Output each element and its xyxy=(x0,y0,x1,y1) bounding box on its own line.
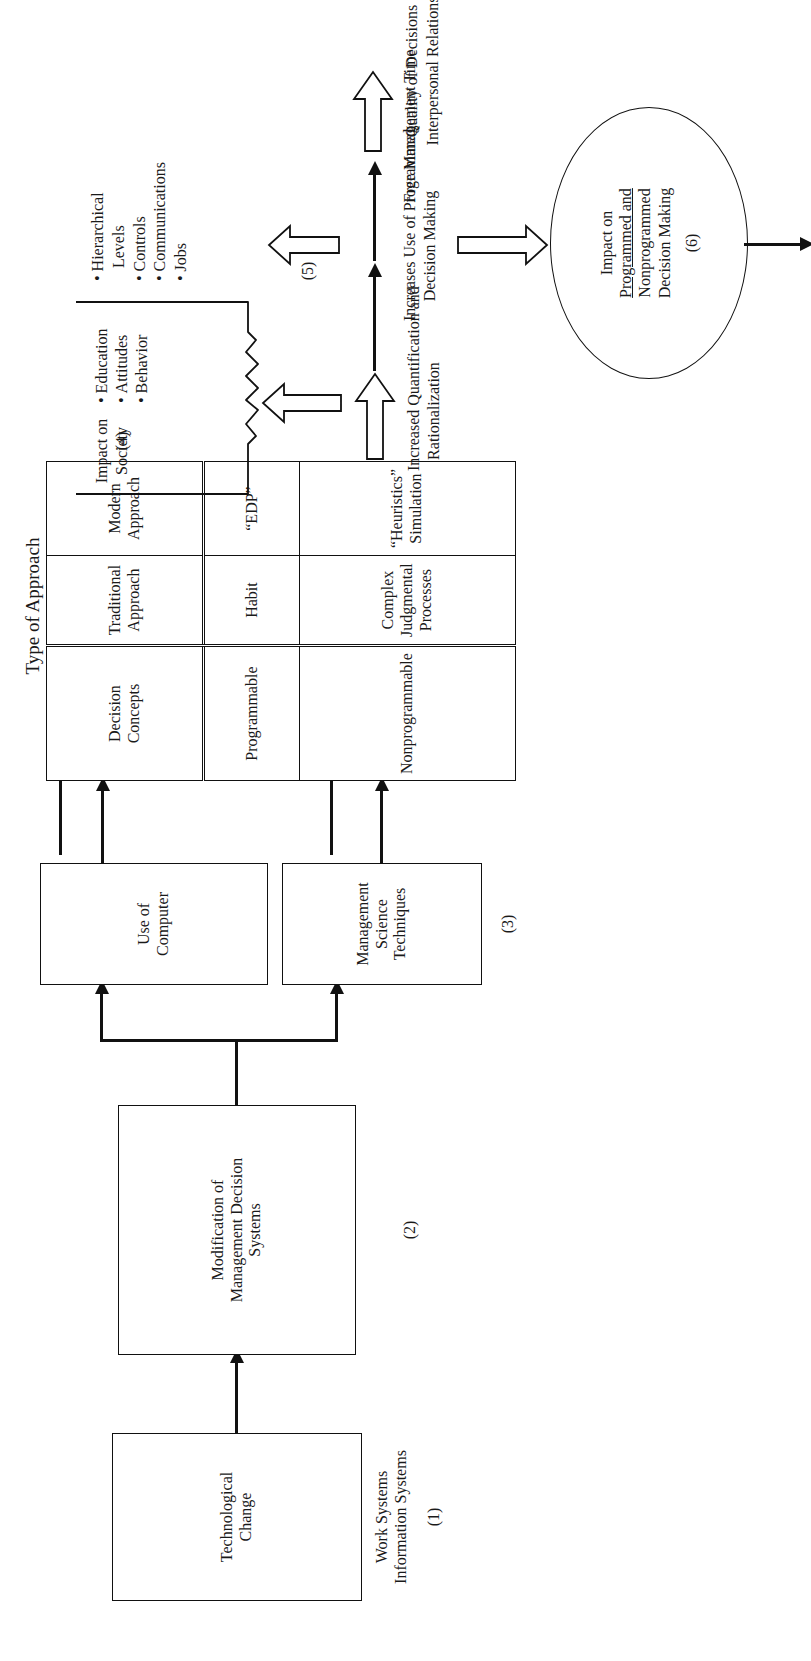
information-systems-label: Information Systems xyxy=(391,1433,410,1601)
bullet-education-label: Education xyxy=(93,329,110,394)
management-science-line3: Techniques xyxy=(391,882,410,966)
connector-mgmtsci-to-nonprogrammable xyxy=(380,787,383,863)
table-row: Nonprogrammable Complex Judgmental Proce… xyxy=(299,462,515,781)
stage-number-2: (2) xyxy=(400,1105,419,1355)
connector-quantification-to-increases-use-head xyxy=(368,263,382,277)
table-cell-habit: Habit xyxy=(204,556,299,646)
ellipse-line1: Impact on xyxy=(597,188,616,299)
connector-quantification-to-increases-use xyxy=(373,271,376,371)
table-cell-heuristics-simulation: “Heuristics” Simulation xyxy=(299,462,515,556)
connector-2-to-management-science xyxy=(335,990,338,1042)
connector-increases-use-to-free-time-head xyxy=(368,161,382,175)
complex-line1: Complex xyxy=(379,562,398,638)
figure-canvas: Technological Change Work Systems Inform… xyxy=(0,0,811,1661)
increased-quantification-line2: Rationalization xyxy=(424,351,444,471)
node-management-science-techniques: Management Science Techniques xyxy=(282,863,482,985)
table-cell-complex-judgmental-processes: Complex Judgmental Processes xyxy=(299,556,515,646)
connector-ellipse-to-middle-mgmt-head xyxy=(800,238,811,252)
complex-line3: Processes xyxy=(417,562,436,638)
bullet-communications: • Communications xyxy=(150,162,171,281)
table-row: Programmable Habit “EDP” xyxy=(204,462,299,781)
modification-line3: Systems xyxy=(246,1158,265,1302)
connector-ellipse-to-middle-mgmt xyxy=(744,243,806,246)
technological-change-caption: Work Systems Information Systems xyxy=(372,1433,410,1601)
bullet-education: • Education xyxy=(92,329,112,403)
bullet-levels: Levels xyxy=(109,162,130,281)
flow-diagram: Technological Change Work Systems Inform… xyxy=(0,0,811,1661)
bullet-hierarchical-label: Hierarchical xyxy=(89,192,106,271)
decision-concepts-line1: Decision xyxy=(106,653,125,774)
heuristics-line2: Simulation xyxy=(407,468,426,549)
type-of-approach-header: Type of Approach xyxy=(22,481,45,731)
work-systems-label: Work Systems xyxy=(372,1433,391,1601)
block-arrow-to-impact-ellipse xyxy=(458,225,548,265)
decision-concepts-line2: Concepts xyxy=(125,653,144,774)
increased-quantification-line1: Increased Quantification and xyxy=(404,351,424,471)
technological-change-line1: Technological xyxy=(218,1472,237,1562)
modification-line2: Management Decision xyxy=(228,1158,247,1302)
table-cell-traditional-approach: Traditional Approach xyxy=(47,556,204,646)
connector-2-to-use-of-computer xyxy=(100,990,103,1042)
table-cell-programmable: Programmable xyxy=(204,646,299,781)
connector-computer-to-programmable xyxy=(101,787,104,863)
bullet-hierarchical: • Hierarchical xyxy=(88,162,109,281)
complex-line2: Judgmental xyxy=(398,562,417,638)
node-technological-change: Technological Change xyxy=(112,1433,362,1601)
bullet-attitudes: • Attitudes xyxy=(112,329,132,403)
increases-use-line2: Decision Making xyxy=(420,171,440,321)
label-increased-quantification: Increased Quantification and Rationaliza… xyxy=(404,351,444,471)
stage-number-1: (1) xyxy=(424,1433,443,1601)
label-quality-of-decisions: Quality of Decisions Interpersonal Relat… xyxy=(402,0,444,161)
bullet-controls-label: Controls xyxy=(131,216,148,271)
node-use-of-computer: Use of Computer xyxy=(40,863,268,985)
stage-number-6: (6) xyxy=(682,188,701,299)
connector-1-to-2 xyxy=(235,1361,238,1433)
ellipse-line4: Decision Making xyxy=(655,188,674,299)
connector-nonprogrammable-to-mgmtsci xyxy=(330,779,333,855)
bullet-levels-label: Levels xyxy=(110,225,127,268)
block-arrow-table-to-quantification xyxy=(355,373,395,459)
bullet-jobs-label: Jobs xyxy=(172,243,189,271)
traditional-approach-line1: Traditional xyxy=(106,562,125,638)
table-cell-decision-concepts: Decision Concepts xyxy=(47,646,204,781)
quality-of-decisions-line1: Quality of Decisions xyxy=(402,0,423,161)
management-science-line1: Management xyxy=(354,882,373,966)
connector-table-to-computer-return xyxy=(59,779,62,855)
connector-increases-use-to-free-time xyxy=(373,169,376,261)
bullet-behavior-label: Behavior xyxy=(133,335,150,394)
society-heading-line2: Society xyxy=(112,411,132,491)
approach-table: Decision Concepts Traditional Approach M… xyxy=(46,461,516,781)
modification-line1: Modification of xyxy=(209,1158,228,1302)
ellipse-line3: Nonprogrammed xyxy=(635,188,654,299)
heuristics-line1: “Heuristics” xyxy=(388,468,407,549)
connector-2-split-vertical xyxy=(100,1039,338,1042)
traditional-approach-line2: Approach xyxy=(125,562,144,638)
table-row: Decision Concepts Traditional Approach M… xyxy=(47,462,204,781)
node-modification-of-mds: Modification of Management Decision Syst… xyxy=(118,1105,356,1355)
use-of-computer-line1: Use of xyxy=(135,892,154,956)
bullet-attitudes-label: Attitudes xyxy=(113,335,130,394)
bullet-controls: • Controls xyxy=(130,162,151,281)
block-arrow-to-quality-of-decisions xyxy=(353,71,393,151)
society-impact-bullets: • Education • Attitudes • Behavior xyxy=(92,329,152,403)
management-science-line2: Science xyxy=(373,882,392,966)
block-arrow-to-society-impact xyxy=(262,383,342,423)
ellipse-line2: Programmed and xyxy=(616,188,635,299)
society-impact-heading: Impact on Society xyxy=(92,411,132,491)
org-impact-bullets: • Hierarchical Levels • Controls • Commu… xyxy=(88,162,192,281)
table-cell-nonprogrammable: Nonprogrammable xyxy=(299,646,515,781)
bullet-behavior: • Behavior xyxy=(132,329,152,403)
interpersonal-relations-line: Interpersonal Relations xyxy=(423,0,444,161)
use-of-computer-line2: Computer xyxy=(154,892,173,956)
stage-number-3: (3) xyxy=(498,863,517,985)
bullet-jobs: • Jobs xyxy=(171,162,192,281)
bullet-communications-label: Communications xyxy=(151,162,168,271)
block-arrow-to-org-impact xyxy=(268,225,340,265)
connector-2-trunk xyxy=(235,1039,238,1105)
society-heading-line1: Impact on xyxy=(92,411,112,491)
technological-change-line2: Change xyxy=(237,1472,256,1562)
node-impact-on-decision-making: Impact on Programmed and Nonprogrammed D… xyxy=(550,107,748,379)
